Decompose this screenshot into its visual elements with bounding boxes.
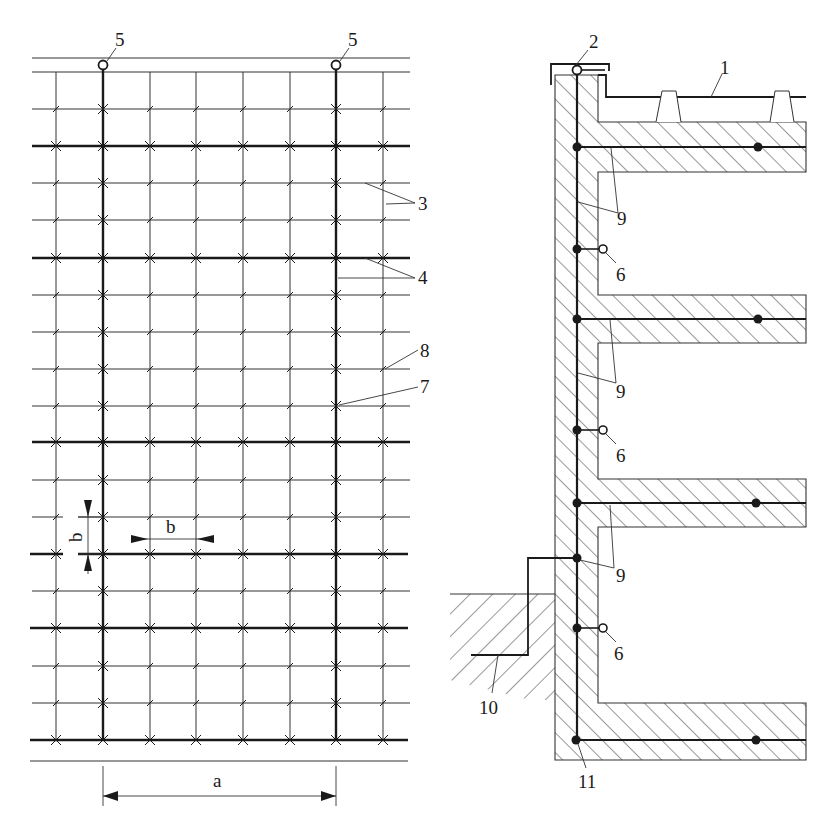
diagram-svg: 5 5 3 4 8 7 b b	[0, 0, 832, 826]
dimension-b-horizontal: b	[131, 516, 214, 543]
connection-terminal-icon	[599, 426, 607, 434]
label-a: a	[213, 770, 222, 791]
dimension-a: a	[103, 766, 336, 806]
plan-main-vertical-conductors	[103, 68, 336, 740]
roof-support-2	[770, 91, 794, 122]
junction-dots	[572, 143, 763, 745]
ground-soil	[450, 594, 555, 700]
label-3: 3	[418, 193, 428, 214]
label-b-vertical: b	[65, 533, 86, 543]
leader-2	[576, 50, 588, 65]
diagram-canvas: 5 5 3 4 8 7 b b	[0, 0, 832, 826]
label-6-c: 6	[614, 643, 624, 664]
building-structure	[555, 75, 806, 760]
label-7: 7	[420, 376, 430, 397]
label-5-left: 5	[115, 29, 125, 50]
label-4: 4	[418, 267, 428, 288]
label-8: 8	[420, 340, 430, 361]
leader-4a	[365, 258, 415, 278]
section-view: 1 2 6	[450, 31, 806, 792]
connection-terminal-icon	[599, 624, 607, 632]
plan-horizontal-lines	[32, 109, 410, 703]
label-9-b: 9	[616, 381, 626, 402]
plan-view: 5 5 3 4 8 7 b b	[30, 29, 430, 806]
roof-support-1	[656, 91, 681, 122]
leader-7	[339, 387, 418, 405]
label-b-horizontal: b	[166, 516, 176, 537]
leader-3b	[386, 203, 415, 204]
plan-crossing-marks-major	[51, 104, 388, 745]
label-6-a: 6	[616, 264, 626, 285]
leader-8	[385, 350, 418, 369]
label-5-right: 5	[348, 29, 358, 50]
label-9-a: 9	[617, 208, 627, 229]
plan-main-horizontal-conductors	[30, 146, 410, 740]
label-1: 1	[720, 57, 730, 78]
air-terminal-right-icon	[332, 61, 341, 70]
label-11: 11	[578, 771, 596, 792]
air-terminal-left-icon	[99, 61, 108, 70]
label-6-b: 6	[616, 445, 626, 466]
label-9-c: 9	[616, 565, 626, 586]
connection-terminal-icon	[599, 245, 607, 253]
label-10: 10	[479, 697, 498, 718]
label-2: 2	[589, 31, 599, 52]
dimension-b-vertical: b	[65, 500, 103, 574]
leader-3a	[365, 183, 415, 203]
parapet-terminal-icon	[573, 66, 582, 75]
